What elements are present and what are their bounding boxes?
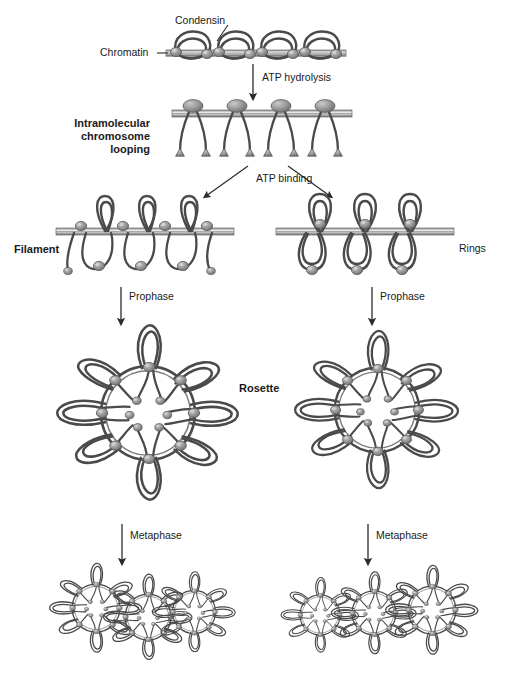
stage-metaphase-left: [50, 563, 235, 659]
label-prophase-right: Prophase: [380, 290, 425, 302]
stage-metaphase-right: [281, 565, 478, 654]
stage-chromatin-fiber: [157, 25, 346, 59]
label-metaphase-left: Metaphase: [130, 529, 182, 541]
label-metaphase-right: Metaphase: [376, 529, 428, 541]
label-atp-hydrolysis: ATP hydrolysis: [262, 71, 331, 83]
label-chromatin: Chromatin: [100, 46, 148, 58]
diagram-artwork: [0, 0, 506, 680]
figure-canvas: Condensin Chromatin ATP hydrolysis Intra…: [0, 0, 506, 680]
label-condensin: Condensin: [175, 14, 225, 26]
label-rosette: Rosette: [239, 382, 279, 395]
label-intramolecular-looping: Intramolecular chromosome looping: [20, 117, 150, 156]
stage-rosette-left: [57, 325, 238, 499]
label-filament: Filament: [14, 243, 59, 256]
label-prophase-left: Prophase: [129, 290, 174, 302]
label-atp-binding: ATP binding: [256, 172, 312, 184]
stage-rosette-right: [295, 331, 458, 488]
stage-looping-fiber: [172, 100, 352, 157]
label-rings: Rings: [459, 242, 486, 254]
stage-rings: [276, 194, 454, 275]
stage-filament: [56, 196, 234, 275]
